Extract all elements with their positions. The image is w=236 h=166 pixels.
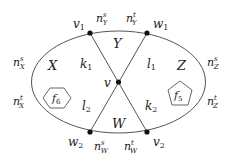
label-n-t-W: ntW (124, 139, 138, 155)
region-w-label: W (112, 116, 127, 131)
label-n-t-Z: ntZ (207, 94, 218, 110)
vertex-v1 (87, 30, 92, 35)
region-x-label: X (47, 58, 58, 73)
label-k1: k1 (80, 57, 92, 72)
label-n-s-W: nsW (94, 139, 109, 155)
label-w1: w1 (153, 17, 168, 32)
label-w2: w2 (68, 135, 83, 150)
label-l2: l2 (82, 99, 91, 114)
vertex-w2 (87, 129, 92, 134)
label-n-s-Y: nsY (96, 11, 109, 27)
label-l1: l1 (147, 57, 156, 72)
region-z-label: Z (176, 58, 187, 73)
label-v1: v1 (73, 17, 85, 32)
graph-diagram: v1 w1 v w2 v2 k1 l1 l2 k2 X Y Z W f6 f5 … (0, 0, 236, 166)
label-n-t-Y: ntY (126, 11, 138, 27)
label-n-s-Z: nsZ (207, 55, 219, 71)
vertex-v (116, 79, 121, 84)
region-y-label: Y (113, 36, 123, 51)
label-n-s-X: nsX (13, 55, 26, 71)
label-v2: v2 (153, 135, 165, 150)
vertex-w1 (144, 30, 149, 35)
vertex-v2 (144, 129, 149, 134)
label-n-t-X: ntX (13, 94, 25, 110)
label-v: v (104, 76, 111, 90)
label-k2: k2 (145, 99, 157, 114)
